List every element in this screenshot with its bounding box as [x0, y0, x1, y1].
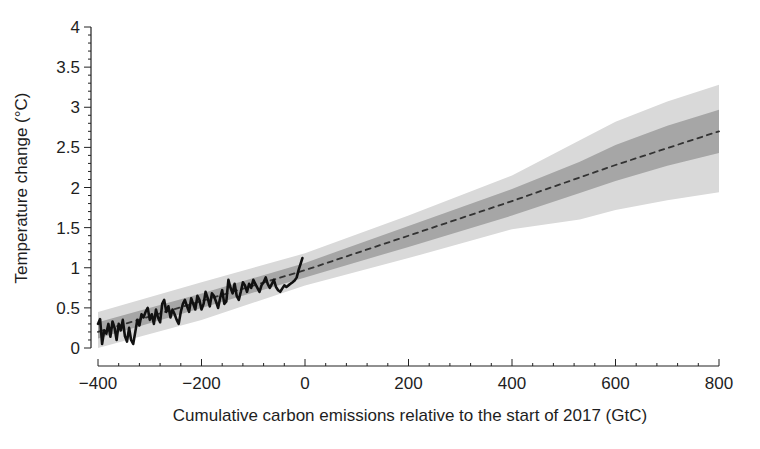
y-tick-label: 0 — [71, 339, 80, 358]
y-axis-title: Temperature change (°C) — [12, 92, 31, 283]
uncertainty-bands — [98, 85, 719, 348]
y-tick-label: 4 — [71, 18, 80, 37]
x-axis: −400−2000200400600800 — [79, 359, 733, 393]
y-tick-label: 3.5 — [56, 58, 80, 77]
y-axis: 00.511.522.533.54 — [56, 18, 91, 358]
x-axis-title: Cumulative carbon emissions relative to … — [173, 406, 647, 425]
y-tick-label: 2 — [71, 179, 80, 198]
chart: 00.511.522.533.54 −400−2000200400600800 … — [0, 0, 760, 449]
x-tick-label: −200 — [182, 374, 220, 393]
y-tick-label: 1.5 — [56, 219, 80, 238]
y-tick-label: 2.5 — [56, 138, 80, 157]
y-tick-label: 1 — [71, 259, 80, 278]
x-tick-label: 0 — [300, 374, 309, 393]
x-tick-label: −400 — [79, 374, 117, 393]
y-tick-label: 3 — [71, 98, 80, 117]
x-tick-label: 600 — [601, 374, 629, 393]
y-tick-label: 0.5 — [56, 299, 80, 318]
x-tick-label: 400 — [498, 374, 526, 393]
x-tick-label: 800 — [705, 374, 733, 393]
x-tick-label: 200 — [394, 374, 422, 393]
